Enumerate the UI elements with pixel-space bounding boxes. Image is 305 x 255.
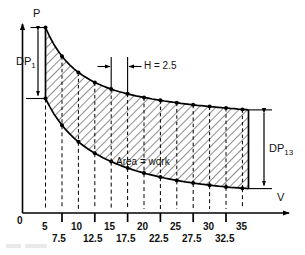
area-work-label: Area = work	[116, 157, 170, 167]
x-tick-17-5: 17.5	[116, 234, 135, 244]
pv-diagram-svg	[0, 0, 305, 255]
x-tick-27-5: 27.5	[182, 234, 201, 244]
dp1-text: DP	[16, 55, 31, 67]
strip-width-label: H = 2.5	[144, 61, 177, 71]
dp13-label: DP13	[269, 143, 293, 157]
x-tick-7-5: 7.5	[52, 234, 66, 244]
dp1-subscript: 1	[31, 61, 35, 70]
x-tick-10: 10	[71, 222, 82, 232]
dp1-label: DP1	[16, 56, 36, 70]
x-tick-32-5: 32.5	[215, 234, 234, 244]
y-axis-label: P	[33, 8, 40, 19]
x-tick-22-5: 22.5	[149, 234, 168, 244]
x-tick-35: 35	[236, 222, 247, 232]
origin-label: 0	[17, 216, 23, 226]
x-tick-5: 5	[42, 222, 48, 232]
dp13-subscript: 13	[284, 148, 293, 157]
x-tick-12-5: 12.5	[83, 234, 102, 244]
x-axis-label: V	[277, 192, 284, 203]
x-tick-15: 15	[104, 222, 115, 232]
x-tick-20: 20	[137, 222, 148, 232]
figure-canvas: P V 0 5 10 15 20 25 30 35 7.5 12.5 17.5 …	[0, 0, 305, 255]
dp13-text: DP	[269, 142, 284, 154]
x-tick-30: 30	[203, 222, 214, 232]
caption-remnant	[6, 244, 47, 248]
x-tick-25: 25	[170, 222, 181, 232]
